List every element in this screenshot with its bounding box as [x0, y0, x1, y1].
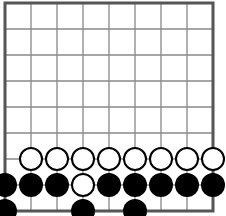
- white-stone[interactable]: [20, 148, 42, 170]
- white-stone[interactable]: [72, 148, 94, 170]
- black-stone[interactable]: [19, 173, 43, 197]
- black-stone[interactable]: [45, 173, 69, 197]
- black-stone[interactable]: [175, 173, 199, 197]
- white-stone[interactable]: [72, 174, 94, 196]
- black-stone[interactable]: [123, 173, 147, 197]
- white-stone[interactable]: [150, 148, 172, 170]
- white-stone[interactable]: [176, 148, 198, 170]
- black-stone[interactable]: [149, 173, 173, 197]
- white-stone[interactable]: [202, 148, 224, 170]
- black-stone[interactable]: [0, 199, 17, 216]
- black-stone[interactable]: [0, 173, 17, 197]
- black-stone[interactable]: [97, 173, 121, 197]
- white-stone[interactable]: [46, 148, 68, 170]
- black-stone[interactable]: [71, 199, 95, 216]
- white-stone[interactable]: [124, 148, 146, 170]
- stones-layer: [0, 148, 225, 216]
- black-stone[interactable]: [201, 173, 225, 197]
- white-stone[interactable]: [98, 148, 120, 170]
- go-board[interactable]: [0, 0, 226, 216]
- black-stone[interactable]: [123, 199, 147, 216]
